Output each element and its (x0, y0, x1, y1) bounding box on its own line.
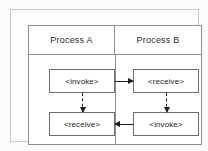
arrowhead-down-icon (80, 107, 86, 113)
lane-divider (115, 55, 116, 145)
arrowhead-right-icon (128, 78, 134, 84)
diagram-inner-frame: Process A Process B <invoke> <receive> <… (28, 25, 202, 145)
activity-label-process-b-invoke: <invoke> (149, 120, 182, 129)
activity-box-process-a-invoke: <invoke> (49, 69, 115, 93)
activity-label-process-a-receive: <receive> (64, 120, 100, 129)
process-b-header-label: Process B (137, 35, 180, 45)
process-header-row: Process A Process B (29, 26, 201, 55)
process-b-header-cell: Process B (115, 26, 201, 54)
process-a-header-label: Process A (50, 35, 92, 45)
connector-response-message-arrow (115, 124, 133, 125)
activity-box-process-a-receive: <receive> (49, 112, 115, 136)
activity-box-process-b-invoke: <invoke> (133, 112, 199, 136)
diagram-canvas: Process A Process B <invoke> <receive> <… (0, 0, 208, 151)
connector-request-message-arrow (115, 81, 133, 82)
process-a-header-cell: Process A (29, 26, 115, 54)
arrowhead-left-icon (114, 121, 120, 127)
connector-sequence-process-a-arrow (82, 93, 83, 112)
diagram-outer-frame: Process A Process B <invoke> <receive> <… (10, 9, 199, 142)
activity-label-process-b-receive: <receive> (148, 77, 184, 86)
activity-box-process-b-receive: <receive> (133, 69, 199, 93)
arrowhead-down-icon (164, 107, 170, 113)
activity-label-process-a-invoke: <invoke> (65, 77, 98, 86)
connector-sequence-process-b-arrow (166, 93, 167, 112)
